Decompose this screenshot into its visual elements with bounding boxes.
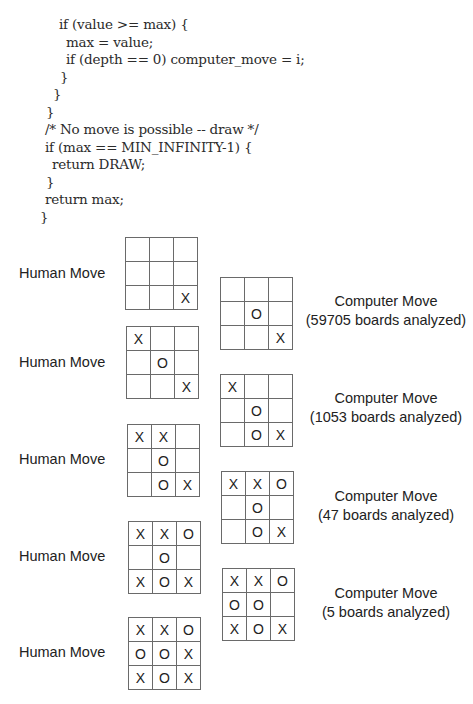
computer-move-label: Computer Move (47 boards analyzed)	[286, 487, 473, 525]
boards-analyzed-count: (47 boards analyzed)	[286, 506, 473, 525]
board-cell	[175, 327, 199, 351]
board-cell: X	[221, 375, 245, 399]
board-cell: X	[176, 473, 200, 497]
board-cell	[174, 262, 198, 286]
board-cell	[222, 520, 246, 544]
human-move-label: Human Move	[19, 264, 105, 283]
human-board-2: X O X	[126, 326, 199, 399]
board-cell	[126, 262, 150, 286]
board-cell	[221, 423, 245, 447]
computer-move-title: Computer Move	[286, 584, 473, 603]
board-cell	[151, 327, 175, 351]
board-cell	[221, 278, 245, 302]
board-cell: O	[152, 473, 176, 497]
board-cell	[221, 399, 245, 423]
code-line: }	[40, 209, 48, 226]
board-cell: X	[127, 327, 151, 351]
board-cell: O	[177, 522, 201, 546]
code-line: return max;	[45, 191, 124, 208]
code-line: }	[60, 69, 68, 86]
human-move-label: Human Move	[19, 353, 105, 372]
computer-move-label: Computer Move (5 boards analyzed)	[286, 584, 473, 622]
board-cell: O	[153, 666, 177, 690]
board-cell	[151, 375, 175, 399]
computer-board-3: X X O O O X	[221, 471, 294, 544]
human-move-label: Human Move	[19, 547, 105, 566]
computer-board-4: X X O O O X O X	[222, 568, 295, 641]
board-cell: X	[174, 286, 198, 310]
board-cell: X	[129, 522, 153, 546]
board-cell: O	[177, 618, 201, 642]
human-board-1: X	[125, 237, 198, 310]
board-cell	[150, 262, 174, 286]
human-board-3: X X O O X	[127, 424, 200, 497]
board-cell	[176, 425, 200, 449]
board-cell	[128, 473, 152, 497]
board-cell	[221, 302, 245, 326]
boards-analyzed-count: (1053 boards analyzed)	[286, 408, 473, 427]
computer-board-1: O X	[220, 277, 293, 350]
board-cell: X	[153, 618, 177, 642]
computer-move-title: Computer Move	[286, 389, 473, 408]
code-comment: /* No move is possible -- draw */	[45, 121, 258, 138]
boards-analyzed-count: (5 boards analyzed)	[286, 603, 473, 622]
board-cell: O	[153, 642, 177, 666]
board-cell: O	[153, 546, 177, 570]
board-cell: O	[247, 617, 271, 641]
board-cell	[175, 351, 199, 375]
board-cell	[174, 238, 198, 262]
board-cell	[127, 375, 151, 399]
computer-move-title: Computer Move	[286, 487, 473, 506]
board-cell: O	[245, 399, 269, 423]
human-move-label: Human Move	[19, 450, 105, 469]
board-cell: X	[177, 642, 201, 666]
board-cell	[150, 286, 174, 310]
board-cell: O	[223, 593, 247, 617]
human-move-label: Human Move	[19, 643, 105, 662]
board-cell	[177, 546, 201, 570]
computer-move-label: Computer Move (59705 boards analyzed)	[286, 292, 473, 330]
board-cell	[221, 326, 245, 350]
board-cell: X	[175, 375, 199, 399]
code-line: }	[46, 174, 54, 191]
code-line: if (max == MIN_INFINITY-1) {	[45, 139, 252, 156]
board-cell	[129, 546, 153, 570]
board-cell	[245, 278, 269, 302]
board-cell: X	[222, 472, 246, 496]
board-cell: X	[223, 569, 247, 593]
code-line: if (value >= max) {	[59, 16, 189, 33]
code-line: }	[46, 104, 54, 121]
board-cell: O	[245, 302, 269, 326]
board-cell: X	[177, 666, 201, 690]
board-cell: X	[223, 617, 247, 641]
board-cell	[126, 286, 150, 310]
human-board-4: X X O O X O X	[128, 521, 201, 594]
board-cell	[127, 351, 151, 375]
code-line: return DRAW;	[52, 156, 145, 173]
code-line: max = value;	[66, 34, 153, 51]
board-cell	[176, 449, 200, 473]
board-cell	[126, 238, 150, 262]
board-cell	[245, 375, 269, 399]
board-cell: O	[152, 449, 176, 473]
human-board-5: X X O O O X X O X	[128, 617, 201, 690]
board-cell: O	[247, 593, 271, 617]
computer-move-title: Computer Move	[286, 292, 473, 311]
board-cell	[150, 238, 174, 262]
computer-board-2: X O O X	[220, 374, 293, 447]
board-cell: X	[129, 666, 153, 690]
board-cell	[128, 449, 152, 473]
board-cell: O	[153, 570, 177, 594]
code-line: if (depth == 0) computer_move = i;	[66, 51, 305, 68]
board-cell: O	[245, 423, 269, 447]
board-cell: X	[247, 569, 271, 593]
code-line: }	[53, 86, 61, 103]
board-cell: X	[129, 618, 153, 642]
board-cell: O	[151, 351, 175, 375]
board-cell: X	[153, 522, 177, 546]
board-cell: O	[129, 642, 153, 666]
boards-analyzed-count: (59705 boards analyzed)	[286, 311, 473, 330]
board-cell	[222, 496, 246, 520]
board-cell: O	[246, 520, 270, 544]
board-cell: X	[246, 472, 270, 496]
